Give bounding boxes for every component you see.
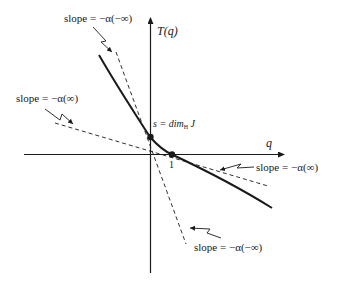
- annotation-right-shallow-slope: slope = −α(∞): [256, 162, 318, 173]
- lightning-arrow-left: [45, 109, 73, 124]
- lightning-arrow-top: [93, 27, 112, 52]
- x-axis-label: q: [266, 137, 272, 149]
- T-q-curve: [99, 55, 272, 208]
- lightning-arrow-right: [220, 164, 254, 170]
- annotation-bottom-steep-slope: slope = −α(−∞): [194, 242, 262, 253]
- point-s-label: s = dimH J: [153, 119, 195, 130]
- multifractal-T-q-diagram: T(q) q s = dimH J 1 slope = −α(−∞) slope…: [0, 0, 337, 283]
- annotation-left-shallow-slope: slope = −α(∞): [16, 93, 78, 104]
- point-s-dimH-J: [147, 134, 153, 140]
- point-q-equals-1: [169, 151, 175, 157]
- lightning-arrow-bottom: [190, 228, 221, 238]
- annotation-top-steep-slope: slope = −α(−∞): [64, 13, 132, 24]
- point-one-label: 1: [169, 160, 174, 170]
- diagram-drawing: [0, 0, 337, 283]
- point-s-label-suffix: J: [188, 118, 195, 129]
- point-s-label-prefix: s = dim: [153, 118, 184, 129]
- y-axis-label: T(q): [157, 25, 178, 37]
